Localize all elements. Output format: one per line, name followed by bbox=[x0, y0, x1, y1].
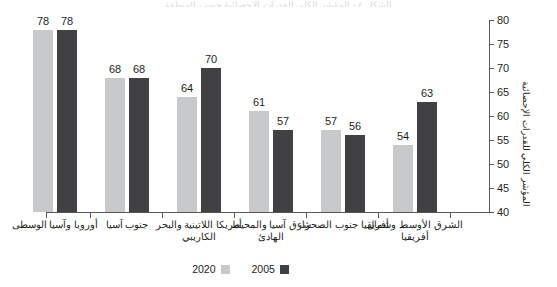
legend-item-2020[interactable]: 2020 bbox=[192, 263, 229, 275]
y-axis-tick bbox=[489, 140, 494, 141]
legend-label: 2005 bbox=[252, 263, 275, 275]
category-tick-origin bbox=[46, 213, 47, 218]
y-axis-tick bbox=[489, 92, 494, 93]
bar-2020-1 bbox=[105, 78, 125, 212]
bar-2005-1 bbox=[129, 78, 149, 212]
bar-2020-5 bbox=[393, 145, 413, 212]
legend-item-2005[interactable]: 2005 bbox=[252, 263, 289, 275]
plot-area: 787868686470615757565463 bbox=[8, 20, 481, 212]
y-axis-tick-label: 55 bbox=[497, 134, 509, 146]
y-axis-tick bbox=[489, 212, 494, 213]
y-axis-tick bbox=[489, 20, 494, 21]
y-axis-tick-label: 45 bbox=[497, 182, 509, 194]
bar-value-label: 68 bbox=[122, 63, 156, 75]
bar-value-label: 54 bbox=[386, 130, 420, 142]
x-axis-baseline bbox=[46, 212, 489, 213]
bar-2005-4 bbox=[345, 135, 365, 212]
y-axis-tick bbox=[489, 116, 494, 117]
bar-value-label: 57 bbox=[266, 115, 300, 127]
category-tick bbox=[306, 213, 307, 218]
y-axis-title-text: المؤشر الكلي للقدرات الإحصائية bbox=[521, 81, 531, 207]
y-axis-tick-label: 75 bbox=[497, 38, 509, 50]
clipped-figure-heading: الشكل ٤ - المؤشر الكلي للقدرات الإحصائية… bbox=[0, 0, 557, 7]
y-axis-tick bbox=[489, 164, 494, 165]
bar-value-label: 70 bbox=[194, 53, 228, 65]
bar-2005-3 bbox=[273, 130, 293, 212]
category-label-5: الشرق الأوسط وشمال أفريقيا bbox=[367, 219, 463, 243]
category-tick bbox=[450, 213, 451, 218]
y-axis-tick bbox=[489, 44, 494, 45]
bar-2020-4 bbox=[321, 130, 341, 212]
bar-value-label: 63 bbox=[410, 87, 444, 99]
y-axis-tick-label: 70 bbox=[497, 62, 509, 74]
bar-2005-2 bbox=[201, 68, 221, 212]
category-tick bbox=[162, 213, 163, 218]
y-axis-tick-label: 50 bbox=[497, 158, 509, 170]
bar-value-label: 78 bbox=[50, 15, 84, 27]
y-axis-tick-label: 80 bbox=[497, 14, 509, 26]
category-tick bbox=[90, 213, 91, 218]
y-axis-tick bbox=[489, 188, 494, 189]
bar-2005-5 bbox=[417, 102, 437, 212]
bar-value-label: 64 bbox=[170, 82, 204, 94]
bar-2005-0 bbox=[57, 30, 77, 212]
bar-value-label: 61 bbox=[242, 96, 276, 108]
bar-2020-0 bbox=[33, 30, 53, 212]
legend-label: 2020 bbox=[192, 263, 215, 275]
legend-swatch-2005 bbox=[280, 265, 289, 274]
category-tick bbox=[378, 213, 379, 218]
y-axis-tick-label: 60 bbox=[497, 110, 509, 122]
statistical-capacity-bar-chart: الشكل ٤ - المؤشر الكلي للقدرات الإحصائية… bbox=[0, 0, 557, 287]
y-axis-title: المؤشر الكلي للقدرات الإحصائية bbox=[521, 47, 531, 207]
y-axis-tick-label: 65 bbox=[497, 86, 509, 98]
legend-swatch-2020 bbox=[221, 265, 230, 274]
y-axis-tick bbox=[489, 68, 494, 69]
bar-value-label: 56 bbox=[338, 120, 372, 132]
bar-2020-2 bbox=[177, 97, 197, 212]
category-tick bbox=[234, 213, 235, 218]
chart-legend: 20202005 bbox=[0, 263, 481, 275]
y-axis-tick-label: 40 bbox=[497, 206, 509, 218]
